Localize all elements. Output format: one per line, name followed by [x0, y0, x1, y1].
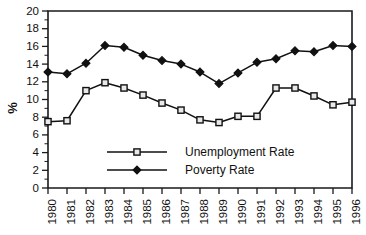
- series-line: [48, 46, 352, 84]
- data-point-marker: [63, 70, 71, 78]
- x-tick-label: 1988: [198, 199, 210, 225]
- data-point-marker: [178, 107, 184, 113]
- legend-label: Poverty Rate: [185, 163, 255, 177]
- x-tick-label: 1982: [84, 199, 96, 225]
- data-point-marker: [348, 43, 356, 51]
- x-axis-ticks: 1980198119821983198419851986198719881989…: [46, 188, 362, 225]
- data-series-layer: [44, 42, 356, 126]
- x-tick-label: 1986: [160, 199, 172, 225]
- x-tick-label: 1985: [141, 199, 153, 225]
- data-point-marker: [330, 102, 336, 108]
- y-tick-label: 16: [26, 40, 39, 52]
- legend-label: Unemployment Rate: [185, 145, 295, 159]
- legend-item-1: Unemployment Rate: [107, 145, 295, 159]
- x-tick-label: 1993: [293, 199, 305, 225]
- data-point-marker: [64, 118, 70, 124]
- chart-legend: Unemployment RatePoverty Rate: [107, 145, 295, 177]
- line-chart: % 02468101214161820 19801981198219831984…: [0, 0, 366, 235]
- x-tick-label: 1994: [312, 198, 324, 224]
- data-point-marker: [254, 113, 260, 119]
- y-tick-label: 18: [26, 22, 39, 34]
- x-tick-label: 1995: [331, 199, 343, 225]
- data-point-marker: [121, 85, 127, 91]
- legend-item-2: Poverty Rate: [107, 163, 255, 177]
- y-tick-label: 12: [26, 75, 39, 87]
- x-tick-label: 1980: [46, 199, 58, 225]
- chart-container: % 02468101214161820 19801981198219831984…: [0, 0, 366, 235]
- data-point-marker: [273, 85, 279, 91]
- x-tick-label: 1990: [236, 199, 248, 225]
- data-point-marker: [159, 100, 165, 106]
- plot-frame: [48, 11, 352, 188]
- data-point-marker: [216, 119, 222, 125]
- data-point-marker: [235, 113, 241, 119]
- data-point-marker: [272, 55, 280, 63]
- y-axis-title: %: [5, 102, 20, 114]
- data-point-marker: [349, 99, 355, 105]
- y-tick-label: 10: [26, 93, 39, 105]
- data-point-marker: [139, 51, 147, 59]
- data-point-marker: [196, 68, 204, 76]
- data-point-marker: [310, 48, 318, 56]
- data-point-marker: [234, 69, 242, 77]
- y-tick-label: 4: [33, 146, 40, 158]
- y-tick-label: 2: [33, 164, 39, 176]
- data-point-marker: [83, 88, 89, 94]
- x-tick-label: 1983: [103, 199, 115, 225]
- legend-swatch-marker: [133, 166, 141, 174]
- data-point-marker: [291, 47, 299, 55]
- legend-swatch-marker: [134, 149, 140, 155]
- data-point-marker: [197, 117, 203, 123]
- y-tick-label: 0: [33, 182, 39, 194]
- data-point-marker: [292, 85, 298, 91]
- data-point-marker: [44, 68, 52, 76]
- x-tick-label: 1981: [65, 199, 77, 225]
- data-point-marker: [140, 92, 146, 98]
- data-point-marker: [177, 60, 185, 68]
- x-tick-label: 1996: [350, 199, 362, 225]
- data-point-marker: [45, 119, 51, 125]
- data-point-marker: [311, 93, 317, 99]
- y-axis-title-group: %: [5, 102, 20, 114]
- y-tick-label: 6: [33, 128, 39, 140]
- x-tick-label: 1992: [274, 199, 286, 225]
- data-point-marker: [329, 42, 337, 50]
- y-axis-ticks: 02468101214161820: [26, 5, 48, 194]
- y-tick-label: 8: [33, 111, 39, 123]
- x-tick-label: 1991: [255, 199, 267, 225]
- y-tick-label: 14: [26, 58, 39, 70]
- series-2: [44, 42, 356, 88]
- data-point-marker: [158, 57, 166, 65]
- data-point-marker: [253, 58, 261, 66]
- y-tick-label: 20: [26, 5, 39, 17]
- data-point-marker: [102, 80, 108, 86]
- x-tick-label: 1987: [179, 199, 191, 225]
- x-tick-label: 1989: [217, 199, 229, 225]
- data-point-marker: [120, 43, 128, 51]
- series-1: [45, 80, 355, 126]
- data-point-marker: [215, 80, 223, 88]
- x-tick-label: 1984: [122, 198, 134, 224]
